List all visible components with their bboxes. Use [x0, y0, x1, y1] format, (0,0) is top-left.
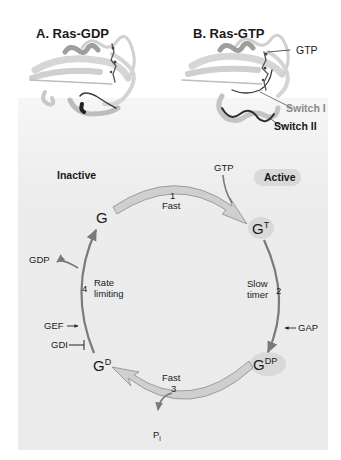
gtp-input-label: GTP	[214, 163, 234, 173]
gdi-inhibit-line	[69, 340, 84, 350]
panel-a-title: A. Ras-GDP	[36, 27, 109, 40]
gap-label: GAP	[298, 323, 318, 333]
pi-output-label: Pi	[153, 430, 161, 442]
step1-label: Fast	[162, 201, 180, 211]
step3-number: 3	[171, 384, 176, 394]
gdp-output-arrow	[57, 261, 78, 268]
inactive-label: Inactive	[57, 170, 96, 181]
state-gd: GD	[93, 358, 111, 373]
switch1-label: Switch I	[286, 103, 326, 114]
step4-number: 4	[82, 284, 87, 294]
step2-label-line1: Slow	[247, 279, 268, 289]
gdi-label: GDI	[51, 340, 68, 350]
step4-label-line2: limiting	[94, 289, 124, 299]
gef-label: GEF	[44, 321, 64, 331]
step3-arc-arrow	[112, 361, 253, 399]
gtp-structure-label: GTP	[296, 45, 318, 56]
gdp-output-label: GDP	[29, 255, 50, 265]
active-label: Active	[264, 172, 296, 183]
panel-b-title: B. Ras-GTP	[193, 27, 265, 40]
step4-label-line1: Rate	[94, 278, 114, 288]
step3-label: Fast	[162, 373, 180, 383]
switch2-label: Switch II	[274, 121, 317, 132]
step2-number: 2	[276, 286, 281, 296]
step2-label-line2: timer	[247, 290, 268, 300]
state-g: G	[96, 210, 108, 225]
state-gt: GT	[252, 221, 269, 236]
state-gdp: GDP	[253, 357, 277, 372]
